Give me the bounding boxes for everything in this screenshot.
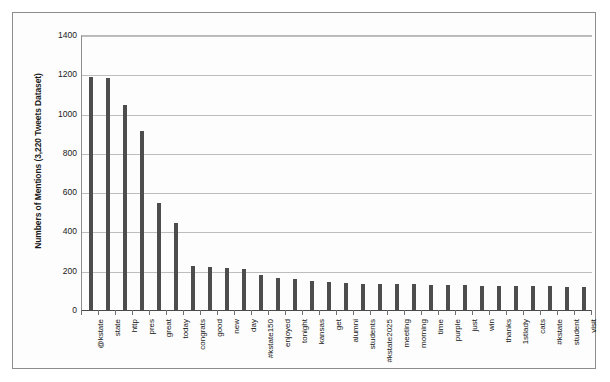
x-axis-tick <box>370 310 371 315</box>
x-axis-tick <box>217 310 218 315</box>
bar-slot <box>507 36 524 311</box>
bar <box>106 78 110 311</box>
bar <box>531 286 535 311</box>
bar <box>310 281 314 311</box>
bar <box>582 287 586 311</box>
bar-slot <box>252 36 269 311</box>
x-axis-tick-label: enjoyed <box>281 319 294 377</box>
x-axis-tick-label: congrats <box>196 319 209 377</box>
y-axis-tick-label: 1400 <box>41 31 77 40</box>
x-axis-tick <box>455 310 456 315</box>
x-axis-ticks <box>81 310 591 316</box>
bar <box>378 284 382 312</box>
x-axis-tick <box>251 310 252 315</box>
bar <box>429 285 433 311</box>
x-axis-tick-label: #kstate150 <box>264 319 277 377</box>
bar <box>89 77 93 311</box>
x-axis-tick-label: #kstate <box>553 319 566 377</box>
x-axis-tick-label: time <box>434 319 447 377</box>
x-axis-tick <box>149 310 150 315</box>
bar-slot <box>150 36 167 311</box>
x-axis-tick <box>591 310 592 315</box>
x-axis-tick-label: tonight <box>298 319 311 377</box>
x-axis-tick-label: state <box>111 319 124 377</box>
bar-slot <box>235 36 252 311</box>
bar <box>327 282 331 311</box>
x-axis-tick <box>81 310 82 315</box>
bar <box>548 286 552 311</box>
bar-slot <box>184 36 201 311</box>
x-axis-tick <box>353 310 354 315</box>
x-axis-tick <box>268 310 269 315</box>
bar-slot <box>201 36 218 311</box>
bar-slot <box>524 36 541 311</box>
x-axis-tick-label: win <box>485 319 498 377</box>
plot-area <box>81 35 592 311</box>
x-axis-tick <box>438 310 439 315</box>
bar-slot <box>337 36 354 311</box>
x-axis-tick <box>183 310 184 315</box>
bar-slot <box>218 36 235 311</box>
bar-slot <box>405 36 422 311</box>
x-axis-tick <box>115 310 116 315</box>
x-axis-tick-label: new <box>230 319 243 377</box>
bar <box>565 287 569 311</box>
x-axis-tick <box>166 310 167 315</box>
bar-slot <box>473 36 490 311</box>
bar <box>276 278 280 311</box>
x-axis-tick <box>421 310 422 315</box>
x-axis-tick <box>523 310 524 315</box>
x-axis-tick-label: #kstate2025 <box>383 319 396 377</box>
bar <box>361 284 365 312</box>
x-axis-tick-label: good <box>213 319 226 377</box>
bar-slot <box>82 36 99 311</box>
x-axis-tick <box>472 310 473 315</box>
x-axis-tick-label: meeting <box>400 319 413 377</box>
x-axis-tick <box>285 310 286 315</box>
bar-slot <box>167 36 184 311</box>
x-axis-tick-label: get <box>332 319 345 377</box>
bar <box>463 285 467 311</box>
bar <box>497 286 501 311</box>
bar-slot <box>269 36 286 311</box>
y-axis-tick-label: 1200 <box>41 70 77 79</box>
bar <box>157 203 161 311</box>
bar-slot <box>558 36 575 311</box>
x-axis-tick-label: kansas <box>315 319 328 377</box>
bar <box>259 275 263 311</box>
bar-slot <box>422 36 439 311</box>
x-axis-tick-label: today <box>179 319 192 377</box>
y-axis-tick-label: 0 <box>41 306 77 315</box>
bar <box>514 286 518 311</box>
x-axis-tick-label: @kstate <box>94 319 107 377</box>
x-axis-tick <box>319 310 320 315</box>
y-axis-tick-label: 800 <box>41 149 77 158</box>
x-axis-tick <box>540 310 541 315</box>
bar-slot <box>354 36 371 311</box>
bar <box>446 285 450 311</box>
bar-slot <box>371 36 388 311</box>
bar <box>225 268 229 311</box>
x-axis-tick-label: students <box>366 319 379 377</box>
x-axis-tick-label: great <box>162 319 175 377</box>
x-axis-tick <box>234 310 235 315</box>
x-axis-tick-label: pres <box>145 319 158 377</box>
x-axis-tick <box>132 310 133 315</box>
bar-slot <box>575 36 592 311</box>
x-axis-tick-label: thanks <box>502 319 515 377</box>
x-axis-tick <box>336 310 337 315</box>
x-axis-tick-label: alumni <box>349 319 362 377</box>
bar-slot <box>286 36 303 311</box>
bar <box>140 131 144 311</box>
chart-frame: Numbers of Mentions (3,220 Tweets Datase… <box>12 12 596 369</box>
x-axis-tick-label: cats <box>536 319 549 377</box>
x-axis-tick <box>557 310 558 315</box>
x-axis-tick-label: http <box>128 319 141 377</box>
x-axis-tick <box>404 310 405 315</box>
x-axis-tick-label: day <box>247 319 260 377</box>
y-axis-tick-label: 600 <box>41 188 77 197</box>
bar-slot <box>303 36 320 311</box>
x-axis-tick <box>387 310 388 315</box>
bar <box>344 283 348 311</box>
bar-slot <box>116 36 133 311</box>
